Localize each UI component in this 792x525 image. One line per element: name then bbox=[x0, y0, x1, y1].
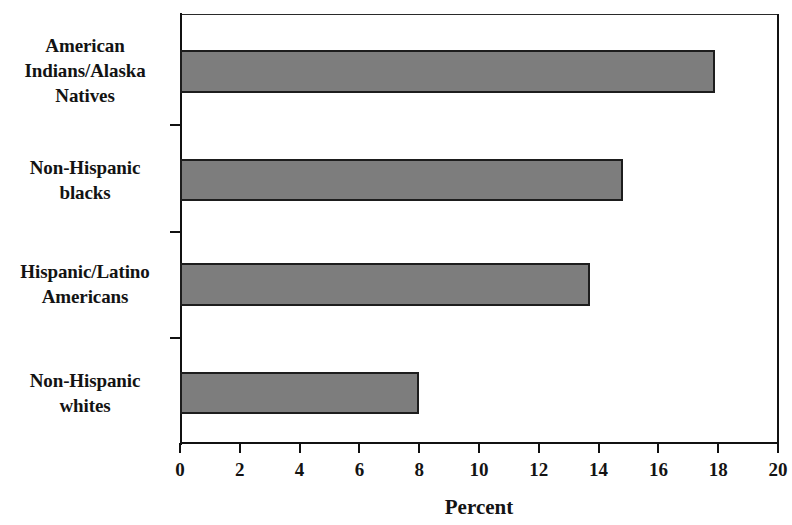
bar-hispanic-latino-americans bbox=[180, 263, 590, 306]
x-axis-tick bbox=[179, 443, 181, 453]
x-axis-tick-label: 20 bbox=[758, 459, 792, 481]
x-axis-tick bbox=[598, 443, 600, 453]
y-axis-tick bbox=[170, 337, 181, 339]
x-axis-title: Percent bbox=[0, 495, 792, 519]
category-label-non-hispanic-whites: Non-Hispanic whites bbox=[0, 368, 175, 418]
x-axis-tick bbox=[418, 443, 420, 453]
x-axis-tick bbox=[717, 443, 719, 453]
category-label-american-indians-alaska-natives: American Indians/Alaska Natives bbox=[0, 33, 175, 108]
bar-american-indians-alaska-natives bbox=[180, 50, 715, 93]
bar-non-hispanic-whites bbox=[180, 372, 419, 414]
x-axis-tick-label: 10 bbox=[459, 459, 499, 481]
y-axis-tick bbox=[170, 124, 181, 126]
category-label-non-hispanic-blacks: Non-Hispanic blacks bbox=[0, 155, 175, 205]
x-axis-tick bbox=[657, 443, 659, 453]
category-label-hispanic-latino-americans: Hispanic/Latino Americans bbox=[0, 259, 175, 309]
x-axis-tick bbox=[239, 443, 241, 453]
plot-border-right bbox=[777, 14, 779, 444]
x-axis-tick bbox=[299, 443, 301, 453]
x-axis-tick bbox=[538, 443, 540, 453]
x-axis-tick bbox=[358, 443, 360, 453]
x-axis-tick-label: 18 bbox=[698, 459, 738, 481]
x-axis-tick-label: 16 bbox=[638, 459, 678, 481]
x-axis-tick bbox=[478, 443, 480, 453]
x-axis-tick-label: 0 bbox=[160, 459, 200, 481]
x-axis-tick bbox=[777, 443, 779, 453]
x-axis-tick-label: 4 bbox=[280, 459, 320, 481]
x-axis-tick-label: 14 bbox=[579, 459, 619, 481]
plot-border-top bbox=[180, 14, 779, 15]
x-axis-tick-label: 2 bbox=[220, 459, 260, 481]
x-axis-tick-label: 8 bbox=[399, 459, 439, 481]
bar-chart: American Indians/Alaska Natives Non-Hisp… bbox=[0, 0, 792, 525]
bar-non-hispanic-blacks bbox=[180, 159, 623, 201]
x-axis-tick-label: 12 bbox=[519, 459, 559, 481]
y-axis-tick bbox=[170, 231, 181, 233]
x-axis-tick-label: 6 bbox=[339, 459, 379, 481]
